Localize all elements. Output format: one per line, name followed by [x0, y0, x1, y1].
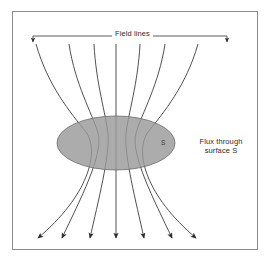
- field-diagram: [0, 0, 276, 266]
- surface-marker-label: S: [161, 139, 165, 147]
- field-lines-label: Field lines: [112, 29, 153, 38]
- figure-root: Field lines S Flux throughsurface S: [0, 0, 276, 266]
- surface-s-ellipse: [57, 116, 175, 170]
- flux-line-2: surface S: [205, 146, 238, 155]
- flux-line-1: Flux through: [200, 137, 243, 146]
- flux-through-surface-label: Flux throughsurface S: [190, 137, 252, 156]
